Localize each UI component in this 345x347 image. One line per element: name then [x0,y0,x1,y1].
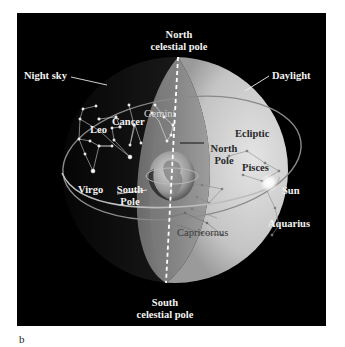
night-sky-label: Night sky [24,70,67,82]
ecliptic-label: Ecliptic [235,128,269,140]
daylight-label: Daylight [272,70,311,82]
leader-daylight [245,76,269,91]
south-pole-label: South Pole [117,184,143,208]
leo-label: Leo [90,124,107,136]
sun-label: Sun [282,185,300,197]
celestial-sphere-graphic [17,13,326,326]
label-line: South [117,184,143,196]
virgo-label: Virgo [78,184,103,196]
capricornus-label: Capricornus [177,227,228,239]
label-line: celestial pole [151,41,208,53]
north-pole-label: North Pole [211,143,238,167]
north-celestial-pole-label: North celestial pole [151,29,208,53]
panel-label: b [19,333,25,345]
label-line: South [137,297,194,309]
aquarius-label: Aquarius [268,218,310,230]
label-line: celestial pole [137,309,194,321]
label-line: North [211,143,238,155]
leader-night-sky [71,77,107,85]
label-line: Pole [211,155,238,167]
south-celestial-pole-label: South celestial pole [137,297,194,321]
cancer-label: Cancer [112,116,145,128]
pisces-label: Pisces [242,162,269,174]
sun-icon [260,174,278,192]
label-line: Pole [117,196,143,208]
label-line: North [151,29,208,41]
gemini-label: Gemini [144,108,176,120]
celestial-sphere-diagram: North celestial pole Night sky Daylight … [17,13,326,326]
